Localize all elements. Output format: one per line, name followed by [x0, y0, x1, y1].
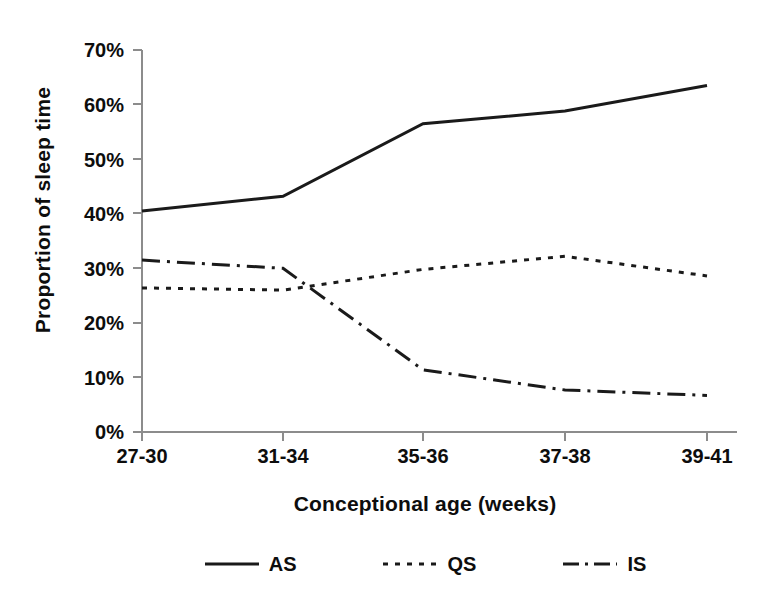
plot-area [0, 0, 768, 609]
legend-swatch-solid-icon [204, 557, 260, 571]
series-line-is [142, 260, 707, 395]
chart-legend: AS QS IS [140, 544, 710, 584]
legend-swatch-dashdot-icon [562, 557, 618, 571]
legend-label-is: IS [627, 554, 646, 574]
series-line-qs [142, 256, 707, 290]
legend-label-as: AS [269, 554, 297, 574]
y-tick-marks [133, 50, 142, 432]
legend-entry-is: IS [562, 554, 646, 574]
legend-entry-as: AS [204, 554, 297, 574]
line-chart: Proportion of sleep time Conceptional ag… [0, 0, 768, 609]
series-line-as [142, 86, 707, 212]
legend-label-qs: QS [447, 554, 476, 574]
legend-entry-qs: QS [382, 554, 476, 574]
legend-swatch-dotted-icon [382, 557, 438, 571]
x-tick-marks [142, 432, 707, 441]
